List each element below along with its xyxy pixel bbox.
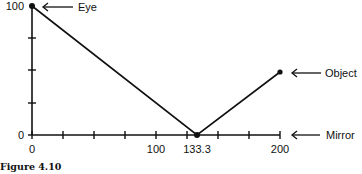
eye-arrow-icon: [43, 3, 73, 11]
eye-label: Eye: [78, 1, 97, 13]
object-arrow-icon: [292, 69, 321, 77]
x-label-0: 0: [29, 143, 35, 155]
x-label-200: 200: [271, 143, 289, 155]
object-label: Object: [325, 67, 357, 79]
light-path-line: [32, 6, 280, 135]
x-label-100: 100: [147, 143, 165, 155]
eye-point: [29, 3, 35, 9]
reflection-diagram: 100 0 0 100 133.3 200 Eye Object Mirror …: [0, 0, 362, 174]
mirror-label: Mirror: [326, 129, 355, 141]
mirror-arrow-icon: [292, 131, 320, 139]
figure-caption: Figure 4.10: [0, 161, 62, 172]
y-label-100: 100: [6, 0, 24, 12]
y-label-0: 0: [18, 129, 24, 141]
reflection-point: [194, 132, 200, 138]
object-point: [277, 69, 282, 74]
x-label-133-3: 133.3: [183, 143, 211, 155]
